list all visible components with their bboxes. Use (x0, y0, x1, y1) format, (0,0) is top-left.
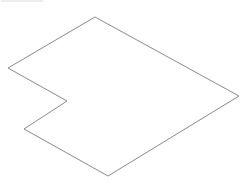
diagram-canvas (0, 0, 251, 184)
cropped-header-text (1, 0, 43, 2)
l-shape-outline (8, 17, 239, 176)
outline-svg (0, 0, 251, 184)
